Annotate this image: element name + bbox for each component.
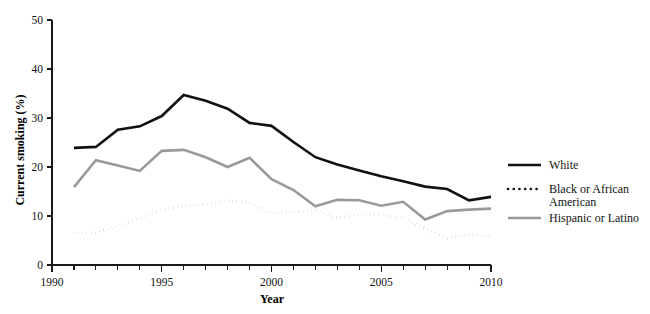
chart-container: 01020304050 19901995200020052010 Current…: [0, 0, 650, 314]
y-tick-label: 10: [32, 210, 44, 222]
x-tick-label: 1990: [41, 276, 64, 288]
y-axis-title: Current smoking (%): [13, 94, 27, 205]
legend-label-2: Hispanic or Latino: [549, 211, 639, 225]
series-line-2: [74, 150, 491, 220]
y-tick-label: 40: [32, 63, 44, 75]
y-tick-label: 20: [32, 161, 44, 173]
legend-label-1: American: [549, 195, 596, 209]
x-axis-title: Year: [260, 292, 285, 306]
y-axis: 01020304050: [32, 14, 53, 271]
x-axis-ticks: 19901995200020052010: [41, 265, 503, 288]
x-tick-label: 2005: [370, 276, 393, 288]
x-axis: 19901995200020052010: [41, 265, 503, 288]
legend-label-1: Black or African: [549, 182, 629, 196]
chart-legend: WhiteBlack or AfricanAmericanHispanic or…: [508, 158, 639, 225]
x-tick-label: 1995: [150, 276, 173, 288]
x-tick-label: 2010: [480, 276, 503, 288]
y-axis-ticks: 01020304050: [32, 14, 53, 271]
y-tick-label: 50: [32, 14, 44, 26]
data-series-group: [74, 95, 491, 239]
x-tick-label: 2000: [260, 276, 283, 288]
legend-label-0: White: [549, 158, 578, 172]
y-tick-label: 30: [32, 112, 44, 124]
line-chart: 01020304050 19901995200020052010 Current…: [0, 0, 650, 314]
y-tick-label: 0: [37, 259, 43, 271]
